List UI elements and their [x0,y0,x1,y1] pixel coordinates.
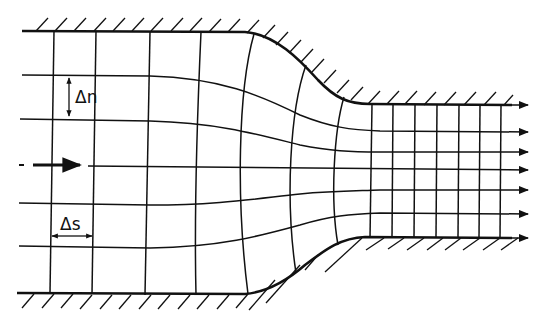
streamline-6 [19,213,528,248]
streamline-5 [19,190,528,205]
delta-s-label: Δs [60,214,81,234]
delta-n-dimension: Δn [69,78,97,116]
flow-net-diagram: Δn Δs [0,0,542,330]
equipotential-lines [50,31,501,295]
bottom-wall [17,237,512,294]
delta-s-dimension: Δs [52,214,92,236]
streamline-4 [88,166,528,170]
delta-n-label: Δn [75,87,97,107]
streamline-3 [20,119,528,152]
bottom-wall-hatching [22,238,518,310]
